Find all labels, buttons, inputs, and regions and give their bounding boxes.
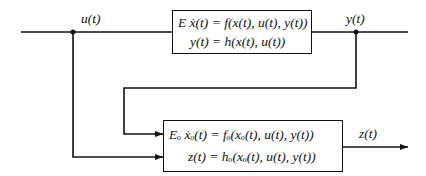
system-output-equation: y(t) = h(x(t), u(t)): [190, 35, 285, 49]
observer-block: Eₒ ẋₒ(t) = fₒ(xₒ(t), u(t), y(t)) z(t) = …: [163, 120, 343, 172]
observer-output-equation: z(t) = hₒ(xₒ(t), u(t), y(t)): [188, 150, 316, 164]
label-z: z(t): [359, 127, 377, 141]
label-u: u(t): [81, 12, 101, 26]
system-block: E ẋ(t) = f(x(t), u(t), y(t)) y(t) = h(x(…: [172, 10, 312, 54]
observer-state-equation: Eₒ ẋₒ(t) = fₒ(xₒ(t), u(t), y(t)): [169, 128, 314, 142]
label-y: y(t): [346, 12, 365, 26]
input-branch-path: [73, 32, 163, 157]
system-state-equation: E ẋ(t) = f(x(t), u(t), y(t)): [178, 16, 307, 30]
